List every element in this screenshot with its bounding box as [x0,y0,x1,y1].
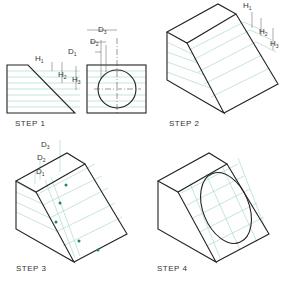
step3-label-d1: D1 [36,167,45,177]
plotted-points [55,184,100,252]
step3-label-d3: D3 [41,140,50,150]
label-h2: H2 [58,70,67,80]
step1-label: STEP 1 [15,119,45,128]
step2-label: STEP 2 [169,119,199,128]
label-h3: H3 [72,75,81,85]
label-d1: D1 [68,47,77,57]
label-d2: D2 [90,37,99,47]
step2-isometric [167,4,278,113]
step4-isometric [158,153,269,262]
step3-isometric [16,140,127,262]
label-h1: H1 [35,54,44,64]
step3-label: STEP 3 [16,264,46,273]
step3-label-d2: D2 [37,153,46,163]
step1-front-view [7,62,80,113]
step4-label: STEP 4 [157,264,187,273]
drawing-canvas: H1 H2 H3 D3 D2 D1 STEP 1 [0,0,290,283]
step2-label-h1: H1 [243,1,252,11]
step2-label-h2: H2 [259,27,268,37]
label-d3: D3 [98,25,107,35]
step2-label-h3: H3 [270,39,279,49]
